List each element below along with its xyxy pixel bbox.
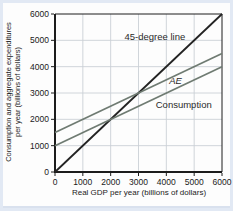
y-tick-label-1000: 1000 [30,141,49,151]
y-tick-label-2000: 2000 [30,114,49,124]
y-axis-label-line2: per year (billions of dollars) [13,0,22,187]
y-tick-label-6000: 6000 [30,9,49,19]
y-axis-label: Consumption and aggregate expenditures p… [4,0,22,187]
x-tick-label-1000: 1000 [73,177,92,187]
x-axis-label: Real GDP per year (billions of dollars) [46,188,232,197]
x-tick-label-5000: 5000 [185,177,204,187]
series-label-ae: AE [168,75,182,86]
series-label-consumption: Consumption [156,99,212,110]
chart-figure: 0100020003000400050006000010002000300040… [0,0,233,211]
y-tick-label-3000: 3000 [30,88,49,98]
y-axis-label-line1: Consumption and aggregate expenditures [4,0,13,187]
plot-svg: 0100020003000400050006000010002000300040… [0,0,233,211]
y-tick-label-0: 0 [44,167,49,177]
x-tick-label-4000: 4000 [157,177,176,187]
y-tick-label-4000: 4000 [30,62,49,72]
x-tick-label-3000: 3000 [129,177,148,187]
x-tick-label-2000: 2000 [101,177,120,187]
x-tick-label-6000: 6000 [213,177,232,187]
series-label-45-degree-line: 45-degree line [125,31,186,42]
x-tick-label-0: 0 [53,177,58,187]
y-tick-label-5000: 5000 [30,35,49,45]
